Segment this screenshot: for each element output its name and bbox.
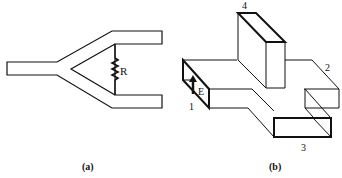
main-arm-front-bottom-edge [209,108,274,137]
port-1-label: 1 [189,101,194,112]
port-2-face [304,89,339,108]
e-field-arrow-icon [189,75,197,94]
figure-canvas: R (a) E 1 2 3 4 (b) [0,0,342,178]
side-arm-right-lower-edge [305,108,313,117]
y-junction-outer-outline [7,31,162,108]
port-3-label: 3 [301,142,306,153]
port-1-face [183,60,209,108]
main-arm-top-right-edge [285,60,339,89]
resistor-label: R [120,65,128,77]
port-2-label: 2 [325,62,330,73]
y-junction-divider [7,31,162,108]
port-4-face [238,13,285,42]
port-4-tower-base-diagonal [238,60,266,88]
port-4-tower-front-face [266,42,285,88]
magic-tee-waveguide [183,13,339,137]
caption-b: (b) [269,161,281,173]
caption-a: (a) [82,161,94,173]
port-4-label: 4 [242,0,247,11]
e-field-label: E [198,86,204,97]
port-3-inner-diagonal [313,118,331,137]
